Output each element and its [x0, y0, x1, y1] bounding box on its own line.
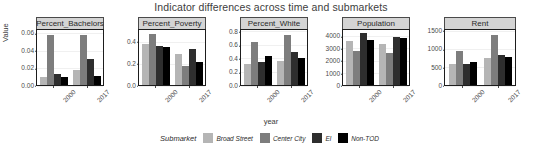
bar — [400, 38, 407, 85]
facet-title: Percent_White — [248, 20, 300, 28]
facet-panel-percent_bachelors: Percent_Bachelors0.000.020.040.062000201… — [14, 17, 104, 110]
facet-panel-population: Population0100020003000400020002017 — [320, 17, 410, 110]
bar — [149, 34, 156, 85]
y-tick-label: 0.06 — [21, 30, 34, 37]
legend: Submarket Broad StreetCenter CityElNon-T… — [0, 133, 542, 143]
legend-item-el[interactable]: El — [312, 133, 331, 143]
facet-panel-rent: Rent05001000150020002017 — [422, 17, 516, 110]
bar — [291, 52, 298, 85]
bar-group-2000 — [445, 30, 480, 85]
bar — [156, 46, 163, 85]
x-axis-title: year — [0, 117, 542, 126]
x-tick-label: 2017 — [96, 89, 111, 104]
bar — [54, 74, 61, 85]
y-tick-label: 3000 — [326, 46, 340, 53]
facet-strip-label: Rent — [444, 17, 516, 29]
plot-area — [36, 29, 104, 86]
y-tick-label: 0.8 — [229, 28, 238, 35]
bar-group-2017 — [274, 30, 307, 85]
facet-body: 01000200030004000 — [320, 29, 410, 86]
y-axis: 0.00.20.4 — [116, 29, 138, 86]
x-tick-mark — [257, 86, 258, 88]
x-tick-label: 2000 — [471, 89, 486, 104]
y-tick-label: 4000 — [326, 33, 340, 40]
x-tick-label: 2017 — [198, 89, 213, 104]
bar — [73, 70, 80, 85]
y-axis: 0.00.20.40.60.8 — [218, 29, 240, 86]
x-tick-mark — [189, 86, 190, 88]
page-title: Indicator differences across time and su… — [0, 1, 542, 13]
legend-item-broad-street[interactable]: Broad Street — [203, 133, 253, 143]
bars-container — [139, 30, 205, 85]
facet-body: 0.00.20.40.60.8 — [218, 29, 308, 86]
legend-title: Submarket — [160, 134, 196, 143]
bar — [470, 62, 477, 85]
x-tick-mark — [393, 86, 394, 88]
facet-strip-label: Population — [342, 17, 410, 29]
bar — [244, 64, 251, 85]
bar — [163, 47, 170, 85]
bar — [298, 58, 305, 85]
y-axis: 0.000.020.040.06 — [14, 29, 36, 86]
plot-area — [342, 29, 410, 86]
bar — [258, 62, 265, 85]
plot-area — [240, 29, 308, 86]
x-axis: 20002017 — [36, 86, 104, 110]
bar — [346, 41, 353, 85]
x-tick-mark — [498, 86, 499, 88]
bar-group-2017 — [172, 30, 205, 85]
bar — [189, 49, 196, 85]
bar — [484, 58, 491, 85]
facet-title: Percent_Bachelors — [36, 20, 104, 28]
x-axis: 20002017 — [138, 86, 206, 110]
bar — [456, 51, 463, 85]
facet-strip-label: Percent_Poverty — [138, 17, 206, 29]
legend-swatch-icon — [203, 133, 213, 143]
y-axis-title: Value — [1, 23, 10, 42]
bar — [449, 64, 456, 85]
bar — [491, 35, 498, 85]
legend-label: Broad Street — [216, 135, 253, 142]
bar-group-2000 — [139, 30, 172, 85]
facet-body: 0.00.20.4 — [116, 29, 206, 86]
plot-area — [444, 29, 516, 86]
x-tick-label: 2017 — [507, 89, 522, 104]
legend-item-non-tod[interactable]: Non-TOD — [338, 133, 379, 143]
facet-title: Population — [357, 20, 395, 28]
bar — [40, 77, 47, 85]
y-axis: 050010001500 — [422, 29, 444, 86]
y-tick-label: 1000 — [326, 70, 340, 77]
legend-label: El — [325, 135, 331, 142]
bar — [386, 53, 393, 85]
legend-item-center-city[interactable]: Center City — [260, 133, 306, 143]
plot-area — [138, 29, 206, 86]
y-tick-label: 0.02 — [21, 65, 34, 72]
bar — [196, 62, 203, 85]
facet-panel-row: Percent_Bachelors0.000.020.040.062000201… — [14, 17, 516, 110]
x-tick-mark — [462, 86, 463, 88]
y-tick-label: 0.2 — [229, 69, 238, 76]
y-tick-label: 0.0 — [127, 83, 136, 90]
x-tick-label: 2017 — [300, 89, 315, 104]
x-tick-mark — [359, 86, 360, 88]
y-tick-label: 1000 — [428, 46, 442, 53]
x-tick-label: 2000 — [368, 89, 383, 104]
bar — [87, 59, 94, 85]
bar — [94, 76, 101, 85]
bar — [47, 35, 54, 85]
y-tick-label: 2000 — [326, 58, 340, 65]
x-tick-label: 2000 — [266, 89, 281, 104]
bar — [182, 66, 189, 85]
bar — [265, 56, 272, 85]
bar-group-2000 — [343, 30, 376, 85]
facet-panel-percent_poverty: Percent_Poverty0.00.20.420002017 — [116, 17, 206, 110]
legend-label: Center City — [273, 135, 306, 142]
bar — [175, 54, 182, 85]
legend-swatch-icon — [338, 133, 348, 143]
x-tick-mark — [87, 86, 88, 88]
bar — [61, 77, 68, 85]
bar-group-2017 — [480, 30, 515, 85]
x-tick-mark — [53, 86, 54, 88]
y-tick-label: 0.4 — [229, 56, 238, 63]
facet-body: 050010001500 — [422, 29, 516, 86]
